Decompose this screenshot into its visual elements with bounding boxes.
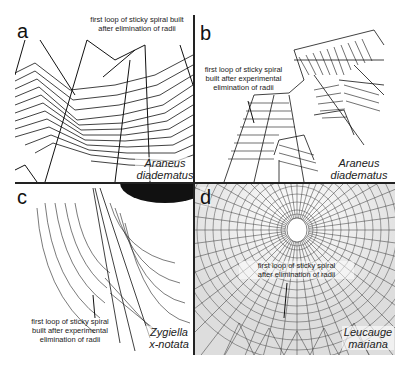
panel-letter-a: a <box>17 21 28 41</box>
species-label-c: Zygiella x-notata <box>143 326 193 350</box>
annotation-b: first loop of sticky spiral built after … <box>196 65 291 92</box>
panel-d: d first loop of sticky spiral after elim… <box>194 183 395 355</box>
species-label-d: Leucauge mariana <box>342 326 394 350</box>
panel-a: a first loop of sticky spiral built afte… <box>15 15 193 182</box>
annotation-d: first loop of sticky spiral after elimin… <box>239 261 354 279</box>
annotation-c: first loop of sticky spiral built after … <box>15 317 125 344</box>
horizontal-divider <box>15 182 395 184</box>
species-label-a: Araneus diadematus <box>135 157 193 181</box>
panel-letter-c: c <box>17 187 27 207</box>
vertical-divider <box>193 15 195 355</box>
panel-b: b first loop of sticky spiral built afte… <box>194 15 394 182</box>
species-label-b: Araneus diadematus <box>324 157 394 181</box>
panel-letter-b: b <box>200 23 211 43</box>
panel-c: c first loop of sticky spiral built afte… <box>15 183 193 355</box>
panel-letter-d: d <box>200 187 211 207</box>
figure: a first loop of sticky spiral built afte… <box>0 0 409 368</box>
annotation-a: first loop of sticky spiral built after … <box>77 15 193 33</box>
